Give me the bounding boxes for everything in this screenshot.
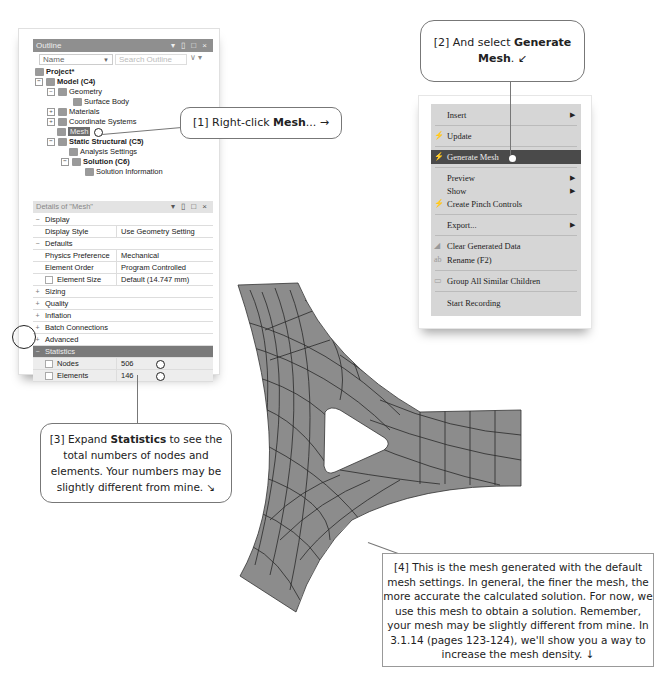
materials-icon xyxy=(58,108,67,116)
tree-item-mesh[interactable]: Mesh xyxy=(57,127,103,137)
tree-item-static-structural[interactable]: −Static Structural (C5) xyxy=(47,137,144,147)
callout-text: . ↙ xyxy=(511,52,527,65)
menu-item-start-recording[interactable]: Start Recording xyxy=(431,296,581,310)
search-outline-input[interactable]: Search Outline xyxy=(115,54,187,65)
analysis-settings-icon xyxy=(69,148,78,156)
menu-item-preview[interactable]: Preview▶ xyxy=(431,171,581,185)
tree-item-solution[interactable]: −Solution (C6) xyxy=(61,157,130,167)
details-group-display[interactable]: −Display xyxy=(33,214,213,226)
marker-icon xyxy=(156,360,165,369)
panel-window-buttons[interactable]: ▾ ▯ □ × xyxy=(171,201,209,213)
menu-separator xyxy=(435,125,577,126)
tree-item-model[interactable]: −Model (C4) xyxy=(35,77,95,87)
callout-text: [4] This is the mesh generated with the … xyxy=(383,561,652,660)
expand-icon[interactable]: + xyxy=(47,108,55,116)
callout-bold: Statistics xyxy=(111,433,167,445)
menu-separator xyxy=(435,146,577,147)
menu-separator xyxy=(435,291,577,292)
group-label: Inflation xyxy=(43,310,213,321)
tree-item-solution-information[interactable]: Solution Information xyxy=(85,167,163,177)
marker-icon xyxy=(156,372,165,381)
collapse-icon[interactable]: − xyxy=(33,346,42,357)
callout-step-3: [3] Expand Statistics to see the total n… xyxy=(40,423,232,503)
lightning-icon: ⚡ xyxy=(434,153,442,161)
menu-item-update[interactable]: ⚡Update xyxy=(431,129,581,143)
menu-item-show[interactable]: Show▶ xyxy=(431,184,581,198)
panel-window-buttons[interactable]: ▾ ▯ □ × xyxy=(171,39,209,52)
expand-icon[interactable]: + xyxy=(33,310,42,321)
submenu-arrow-icon: ▶ xyxy=(570,184,575,198)
tree-item-analysis-settings[interactable]: Analysis Settings xyxy=(69,147,137,157)
tree-item-surface-body[interactable]: Surface Body xyxy=(73,97,129,107)
details-group-inflation[interactable]: +Inflation xyxy=(33,310,213,322)
prop-value[interactable]: Mechanical xyxy=(119,250,215,261)
clear-icon: ◢ xyxy=(434,242,442,250)
details-group-sizing[interactable]: +Sizing xyxy=(33,286,213,298)
collapse-icon[interactable]: − xyxy=(33,214,42,225)
callout-step-4: [4] This is the mesh generated with the … xyxy=(382,553,654,667)
details-group-advanced[interactable]: +Advanced xyxy=(33,334,213,346)
outline-panel-header: Outline ▾ ▯ □ × xyxy=(33,39,213,52)
callout-leader xyxy=(137,375,138,423)
prop-value: 146 xyxy=(119,370,215,381)
tree-item-project[interactable]: Project* xyxy=(35,67,74,77)
details-row-nodes[interactable]: Nodes506 xyxy=(33,358,213,370)
context-menu: Insert▶ ⚡Update ⚡Generate Mesh Preview▶ … xyxy=(431,104,581,316)
callout-leader xyxy=(510,82,511,155)
prop-value[interactable]: Default (14.747 mm) xyxy=(119,274,215,285)
prop-value[interactable]: Use Geometry Setting xyxy=(119,226,215,237)
collapse-icon[interactable]: − xyxy=(35,78,43,86)
details-row-physics-preference[interactable]: Physics PreferenceMechanical xyxy=(33,250,213,262)
details-group-defaults[interactable]: −Defaults xyxy=(33,238,213,250)
prop-label-text: Elements xyxy=(57,371,88,380)
parameter-checkbox[interactable] xyxy=(45,372,53,380)
menu-item-export[interactable]: Export...▶ xyxy=(431,218,581,232)
menu-label: Group All Similar Children xyxy=(447,276,540,286)
group-label: Quality xyxy=(43,298,213,309)
parameter-checkbox[interactable] xyxy=(45,360,53,368)
collapse-icon[interactable]: − xyxy=(61,158,69,166)
surface-body-icon xyxy=(73,98,82,106)
details-row-elements[interactable]: Elements146 xyxy=(33,370,213,382)
menu-item-insert[interactable]: Insert▶ xyxy=(431,108,581,122)
name-filter-dropdown[interactable]: Name ▼ xyxy=(39,54,113,65)
group-label: Advanced xyxy=(43,334,213,345)
details-group-batch-connections[interactable]: +Batch Connections xyxy=(33,322,213,334)
static-structural-icon xyxy=(58,138,67,146)
details-row-element-size[interactable]: Element SizeDefault (14.747 mm) xyxy=(33,274,213,286)
tree-item-coordinate-systems[interactable]: +Coordinate Systems xyxy=(47,117,137,127)
expand-icon[interactable]: + xyxy=(47,118,55,126)
callout-step-2: [2] And select Generate Mesh. ↙ xyxy=(420,20,585,82)
tree-label: Mesh xyxy=(68,127,90,136)
elements-count: 146 xyxy=(121,371,134,380)
menu-item-rename[interactable]: abRename (F2) xyxy=(431,253,581,267)
collapse-icon[interactable]: − xyxy=(47,88,55,96)
menu-item-clear-generated-data[interactable]: ◢Clear Generated Data xyxy=(431,239,581,253)
geometry-icon xyxy=(58,88,67,96)
prop-label: Nodes xyxy=(43,358,117,369)
click-marker-icon xyxy=(94,128,103,137)
details-group-statistics[interactable]: −Statistics xyxy=(33,346,213,358)
callout-step-1: [1] Right-click Mesh... → xyxy=(180,107,342,139)
expand-icon[interactable]: + xyxy=(33,298,42,309)
model-icon xyxy=(46,78,55,86)
parameter-checkbox[interactable] xyxy=(45,276,53,284)
tree-item-materials[interactable]: +Materials xyxy=(47,107,99,117)
outline-details-screenshot: Outline ▾ ▯ □ × Name ▼ Search Outline ∨ … xyxy=(18,28,220,375)
collapse-icon[interactable]: − xyxy=(47,138,55,146)
collapse-icon[interactable]: − xyxy=(33,238,42,249)
details-grid: −Display Display StyleUse Geometry Setti… xyxy=(33,214,213,382)
expand-icon[interactable]: + xyxy=(33,286,42,297)
menu-label: Create Pinch Controls xyxy=(447,199,522,209)
tree-item-geometry[interactable]: −Geometry xyxy=(47,87,102,97)
search-options-icon[interactable]: ∨ ▾ xyxy=(190,53,202,62)
details-row-display-style[interactable]: Display StyleUse Geometry Setting xyxy=(33,226,213,238)
menu-item-generate-mesh[interactable]: ⚡Generate Mesh xyxy=(431,150,581,164)
details-row-element-order[interactable]: Element OrderProgram Controlled xyxy=(33,262,213,274)
menu-item-group-all-similar-children[interactable]: ▭Group All Similar Children xyxy=(431,274,581,288)
menu-item-create-pinch-controls[interactable]: ⚡Create Pinch Controls xyxy=(431,197,581,211)
menu-label: Show xyxy=(447,186,466,196)
details-group-quality[interactable]: +Quality xyxy=(33,298,213,310)
prop-value[interactable]: Program Controlled xyxy=(119,262,215,273)
menu-label: Preview xyxy=(447,173,475,183)
